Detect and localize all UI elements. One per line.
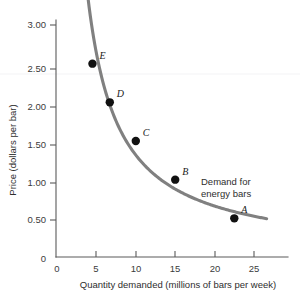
y-tick-label-3.00: 3.00 [28,19,47,30]
data-point-label-a: A [240,204,248,215]
y-tick-label-0: 0 [41,253,46,264]
x-axis-title: Quantity demanded (millions of bars per … [80,279,276,290]
x-tick-label-0: 0 [54,263,59,274]
y-axis-tick-labels: 3.00 2.50 2.00 1.50 1.00 0.50 0 [28,19,47,264]
data-point-label-c: C [143,127,150,138]
chart-canvas: Price (dollars per bar) 3.00 2.50 2.00 1… [0,0,300,294]
y-tick-label-2.00: 2.00 [28,101,47,112]
y-tick-label-0.50: 0.50 [28,214,47,225]
x-axis-tick-labels: 0 5 10 15 20 25 [54,263,259,274]
x-tick-label-20: 20 [210,263,221,274]
x-tick-label-10: 10 [131,263,142,274]
x-tick-label-5: 5 [93,263,98,274]
data-point-label-b: B [182,166,188,177]
annotation-line-1: Demand for [201,176,251,187]
data-point-label-d: D [116,88,125,99]
y-tick-label-1.00: 1.00 [28,177,47,188]
y-tick-label-2.50: 2.50 [28,63,47,74]
data-point-e [88,59,96,67]
data-point-label-e: E [98,50,105,61]
demand-curve-annotation: Demand for energy bars [201,176,251,199]
y-axis-title: Price (dollars per bar) [7,104,18,195]
annotation-line-2: energy bars [201,188,251,199]
y-tick-label-1.50: 1.50 [28,139,47,150]
data-point-a [230,214,238,222]
x-tick-label-15: 15 [170,263,181,274]
data-point-c [132,137,140,145]
data-point-b [171,175,179,183]
y-axis-ticks [50,25,56,220]
demand-curve-chart: Price (dollars per bar) 3.00 2.50 2.00 1… [0,0,300,294]
x-axis-ticks [96,251,254,257]
x-tick-label-25: 25 [249,263,260,274]
data-point-d [106,98,114,106]
